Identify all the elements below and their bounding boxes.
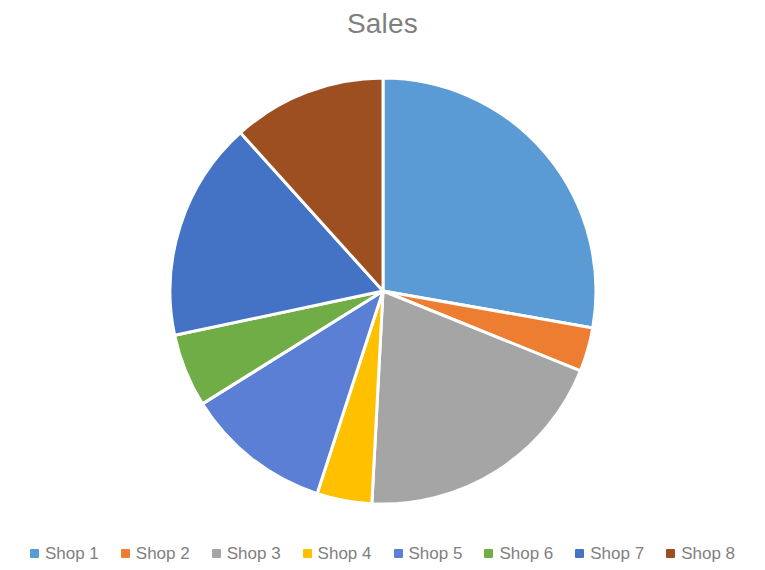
legend-swatch-icon (394, 549, 403, 558)
legend-label: Shop 4 (318, 545, 372, 562)
pie-chart (0, 0, 765, 520)
legend-label: Shop 7 (590, 545, 644, 562)
legend-item-5[interactable]: Shop 5 (394, 545, 463, 562)
legend-swatch-icon (303, 549, 312, 558)
legend-swatch-icon (575, 549, 584, 558)
legend-item-3[interactable]: Shop 3 (212, 545, 281, 562)
legend-item-7[interactable]: Shop 7 (575, 545, 644, 562)
legend-label: Shop 3 (227, 545, 281, 562)
chart-container: Sales Shop 1Shop 2Shop 3Shop 4Shop 5Shop… (0, 0, 765, 570)
legend-label: Shop 1 (45, 545, 99, 562)
legend-item-4[interactable]: Shop 4 (303, 545, 372, 562)
chart-legend: Shop 1Shop 2Shop 3Shop 4Shop 5Shop 6Shop… (0, 536, 765, 570)
legend-label: Shop 2 (136, 545, 190, 562)
legend-swatch-icon (121, 549, 130, 558)
legend-item-6[interactable]: Shop 6 (484, 545, 553, 562)
legend-label: Shop 8 (681, 545, 735, 562)
legend-swatch-icon (484, 549, 493, 558)
legend-item-8[interactable]: Shop 8 (666, 545, 735, 562)
legend-swatch-icon (212, 549, 221, 558)
legend-item-2[interactable]: Shop 2 (121, 545, 190, 562)
legend-label: Shop 5 (409, 545, 463, 562)
legend-swatch-icon (666, 549, 675, 558)
pie-slice-1[interactable] (383, 78, 596, 328)
legend-label: Shop 6 (499, 545, 553, 562)
legend-item-1[interactable]: Shop 1 (30, 545, 99, 562)
legend-swatch-icon (30, 549, 39, 558)
plot-area (0, 0, 765, 520)
